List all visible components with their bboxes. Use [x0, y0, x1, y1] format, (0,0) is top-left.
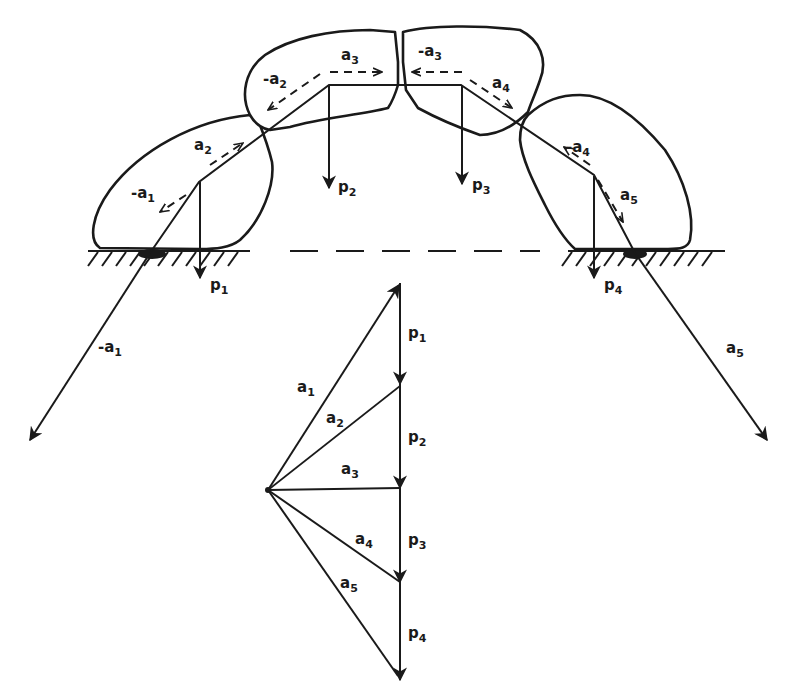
label-reaction-left: -a1: [98, 338, 122, 359]
arch-stones: [93, 26, 691, 249]
ray-a4: [268, 490, 400, 582]
ray-a2: [268, 386, 400, 490]
ray-a3: [268, 488, 400, 490]
stone-4: [520, 95, 691, 249]
polygon-label-p4: p4: [408, 624, 427, 645]
ray-a1: [268, 285, 399, 490]
label-p1: p1: [210, 276, 228, 297]
pole: [265, 487, 271, 493]
polygon-label-a5: a5: [340, 574, 358, 595]
ray-a5: [268, 490, 398, 676]
reaction-arrow-right: [635, 253, 767, 440]
polygon-label-a2: a2: [326, 409, 344, 430]
ground: [88, 249, 725, 266]
force-polygon: p1 p2 p3 p4 a1 a2 a3 a4 a5: [265, 283, 427, 680]
stone-1: [93, 115, 272, 249]
label-reaction-right: a5: [726, 339, 744, 360]
label-p3: p3: [472, 176, 490, 197]
polygon-label-a3: a3: [341, 460, 359, 481]
polygon-label-p3: p3: [408, 531, 426, 552]
reaction-arrow-left: [30, 253, 150, 440]
arch-force-diagram: -a1 a2 -a2 a3 -a3 a4 -a4 a5 p1 p2 p3 p4 …: [0, 0, 790, 698]
polygon-label-a1: a1: [297, 378, 315, 399]
polygon-label-p1: p1: [408, 324, 426, 345]
polygon-label-a4: a4: [355, 530, 373, 551]
label-p4: p4: [604, 276, 623, 297]
polygon-label-p2: p2: [408, 428, 426, 449]
label-p2: p2: [338, 178, 356, 199]
